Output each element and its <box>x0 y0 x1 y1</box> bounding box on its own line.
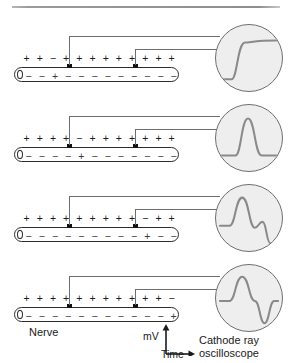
inside-charges-row: −−−−−−−−−−−+ <box>22 310 180 323</box>
wire-to-scope-lower <box>135 49 220 50</box>
charge-sign: − <box>141 70 154 83</box>
wire-to-scope-lower <box>135 289 220 290</box>
wire-to-scope-upper <box>69 276 220 277</box>
charge-sign: − <box>88 310 101 323</box>
trace-rising-sigmoid <box>222 41 276 80</box>
charge-sign: − <box>35 230 48 243</box>
charge-sign: − <box>114 230 127 243</box>
mv-axis-label: mV <box>143 330 159 342</box>
charge-sign: − <box>35 70 48 83</box>
charge-sign: − <box>154 70 167 83</box>
oscilloscope-caption-line1: Cathode ray <box>199 334 259 347</box>
charge-sign: + <box>165 132 178 145</box>
charge-sign: + <box>73 292 86 305</box>
charge-sign: − <box>101 230 114 243</box>
charge-sign: + <box>165 52 178 65</box>
oscilloscope-screen[interactable] <box>215 184 283 252</box>
charge-sign: − <box>73 132 86 145</box>
charge-sign: + <box>139 292 152 305</box>
charge-sign: + <box>86 292 99 305</box>
trace-biphasic <box>220 277 278 324</box>
charge-sign: + <box>73 52 86 65</box>
charge-sign: + <box>33 292 46 305</box>
inside-charges-row: −−+−−−−−−−−− <box>22 70 180 83</box>
electrode-right-lead <box>135 289 136 305</box>
wire-to-scope-upper <box>69 196 220 197</box>
outside-charges-row: +++++++++++− <box>20 292 178 305</box>
wire-to-scope-upper <box>69 116 220 117</box>
charge-sign: − <box>62 150 75 163</box>
charge-sign: − <box>35 150 48 163</box>
charge-sign: + <box>139 52 152 65</box>
charge-sign: − <box>128 150 141 163</box>
electrode-right-lead <box>135 209 136 225</box>
charge-sign: − <box>62 230 75 243</box>
electrode-right-lead <box>135 129 136 145</box>
electrode-left-lead <box>69 196 70 225</box>
charge-sign: − <box>141 310 154 323</box>
charge-sign: − <box>114 70 127 83</box>
charge-sign: − <box>101 310 114 323</box>
charge-sign: − <box>167 150 180 163</box>
charge-sign: − <box>22 150 35 163</box>
charge-sign: − <box>165 292 178 305</box>
charge-sign: + <box>139 132 152 145</box>
charge-sign: − <box>139 212 152 225</box>
outside-charges-row: +++++++++−++ <box>20 212 178 225</box>
charge-sign: − <box>62 70 75 83</box>
charge-sign: − <box>128 310 141 323</box>
charge-sign: − <box>114 150 127 163</box>
charge-sign: − <box>22 310 35 323</box>
charge-sign: − <box>88 230 101 243</box>
time-axis-label: Time <box>161 348 184 360</box>
charge-sign: + <box>152 132 165 145</box>
charge-sign: + <box>20 52 33 65</box>
wire-to-scope-lower <box>135 209 220 210</box>
charge-sign: + <box>112 212 125 225</box>
inside-charges-row: −−−−+−−−−−−− <box>22 150 180 163</box>
charge-sign: + <box>20 292 33 305</box>
oscilloscope-caption: Cathode ray oscilloscope <box>199 334 259 359</box>
charge-sign: − <box>22 230 35 243</box>
charge-sign: + <box>112 292 125 305</box>
outside-charges-row: ++++−+++++++ <box>20 132 178 145</box>
charge-sign: + <box>33 132 46 145</box>
electrode-right-lead <box>135 49 136 65</box>
charge-sign: − <box>154 230 167 243</box>
charge-sign: − <box>167 230 180 243</box>
oscilloscope-screen[interactable] <box>215 264 283 332</box>
charge-sign: − <box>48 150 61 163</box>
oscilloscope-trace-svg <box>216 105 282 171</box>
panel-3: +++++++++−++ −−−−−−−−−+−− <box>0 178 289 258</box>
charge-sign: + <box>86 52 99 65</box>
charge-sign: + <box>99 212 112 225</box>
charge-sign: − <box>75 70 88 83</box>
charge-sign: + <box>141 230 154 243</box>
oscilloscope-trace-svg <box>216 25 282 91</box>
oscilloscope-trace-svg <box>216 265 282 331</box>
charge-sign: + <box>20 132 33 145</box>
charge-sign: − <box>48 310 61 323</box>
charge-sign: − <box>128 230 141 243</box>
charge-sign: + <box>46 132 59 145</box>
charge-sign: + <box>112 52 125 65</box>
charge-sign: + <box>46 292 59 305</box>
charge-sign: + <box>99 132 112 145</box>
oscilloscope-screen[interactable] <box>215 104 283 172</box>
oscilloscope-screen[interactable] <box>215 24 283 92</box>
charge-sign: + <box>46 212 59 225</box>
mv-axis-arrowhead <box>163 324 170 331</box>
charge-sign: − <box>88 150 101 163</box>
charge-sign: − <box>141 150 154 163</box>
electrode-left-lead <box>69 36 70 65</box>
charge-sign: + <box>86 132 99 145</box>
charge-sign: + <box>167 310 180 323</box>
charge-sign: + <box>33 52 46 65</box>
charge-sign: − <box>75 230 88 243</box>
charge-sign: + <box>152 212 165 225</box>
charge-sign: − <box>154 150 167 163</box>
top-divider-rule <box>12 6 280 8</box>
trace-peak-then-step-down <box>220 198 276 244</box>
charge-sign: + <box>99 292 112 305</box>
charge-sign: + <box>152 292 165 305</box>
